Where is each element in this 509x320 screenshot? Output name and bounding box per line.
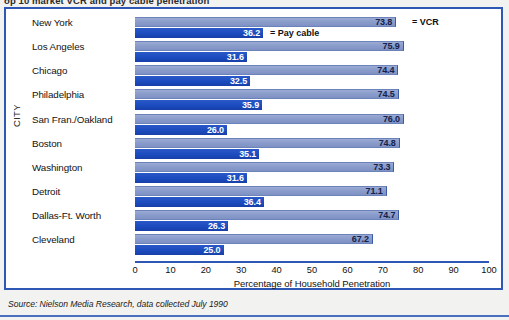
x-tick-label: 50 [297,265,327,275]
bar-value-vcr: 75.9 [370,41,400,51]
x-axis-line [135,261,489,263]
bar-vcr [135,138,400,148]
bar-value-vcr: 73.8 [362,17,392,27]
category-label: Boston [32,138,132,149]
bar-group: Los Angeles75.931.6 [6,40,505,64]
bar-value-vcr: 71.1 [353,186,383,196]
bar-value-pay-cable: 36.4 [231,197,261,207]
category-label: New York [32,17,132,28]
x-tick-label: 30 [226,265,256,275]
x-axis-tick-row: 0102030405060708090100 [6,265,505,279]
bar-group: Washington73.331.6 [6,161,505,185]
bar-value-pay-cable: 32.5 [217,76,247,86]
category-label: Cleveland [32,234,132,245]
bar-value-vcr: 74.4 [364,65,394,75]
bar-group: Cleveland67.225.0 [6,233,505,257]
bar-group: Chicago74.432.5 [6,64,505,88]
bar-value-pay-cable: 31.6 [214,173,244,183]
bar-value-vcr: 67.2 [339,234,369,244]
source-note: Source: Nielson Media Research, data col… [8,299,228,309]
bar-value-vcr: 74.8 [366,138,396,148]
bar-value-pay-cable: 36.2 [230,28,260,38]
x-tick-label: 20 [191,265,221,275]
plot-area: New York73.836.2Los Angeles75.931.6Chica… [6,9,505,258]
bar-value-vcr: 74.5 [365,89,395,99]
category-label: Philadelphia [32,89,132,100]
bar-group: Philadelphia74.535.9 [6,88,505,112]
bar-value-pay-cable: 25.0 [191,245,221,255]
bar-vcr [135,41,404,51]
category-label: Los Angeles [32,41,132,52]
x-tick-label: 40 [262,265,292,275]
chart-frame: CITY New York73.836.2Los Angeles75.931.6… [4,7,503,290]
category-label: Dallas-Ft. Worth [32,210,132,221]
x-tick-label: 60 [332,265,362,275]
legend-label-vcr: = VCR [412,17,439,27]
bar-value-vcr: 76.0 [370,114,400,124]
bar-group: Dallas-Ft. Worth74.726.3 [6,209,505,233]
bar-group: San Fran./Oakland76.026.0 [6,113,505,137]
x-tick-label: 90 [439,265,469,275]
bar-vcr [135,17,396,27]
bar-value-vcr: 73.3 [360,162,390,172]
legend-label-pay-cable: = Pay cable [270,28,319,38]
x-tick-label: 100 [474,265,504,275]
bar-vcr [135,234,373,244]
category-label: Washington [32,162,132,173]
bar-group: Detroit71.136.4 [6,185,505,209]
x-axis-title: Percentage of Household Penetration [135,278,489,289]
category-label: Detroit [32,186,132,197]
bar-value-vcr: 74.7 [365,210,395,220]
bar-value-pay-cable: 26.3 [195,221,225,231]
bar-value-pay-cable: 31.6 [214,52,244,62]
bar-vcr [135,89,399,99]
bar-value-pay-cable: 26.0 [194,125,224,135]
bar-value-pay-cable: 35.1 [226,149,256,159]
bar-vcr [135,162,394,172]
bottom-rule-divider [0,315,509,317]
x-tick-label: 70 [368,265,398,275]
category-label: Chicago [32,65,132,76]
bar-group: Boston74.835.1 [6,137,505,161]
bar-value-pay-cable: 35.9 [229,100,259,110]
cut-off-title-text: op 10 market VCR and pay cable penetrati… [4,0,209,6]
x-tick-label: 80 [403,265,433,275]
bar-vcr [135,65,398,75]
bar-vcr [135,210,399,220]
bar-vcr [135,114,404,124]
category-label: San Fran./Oakland [32,114,132,125]
x-tick-label: 0 [120,265,150,275]
bar-vcr [135,186,387,196]
x-tick-label: 10 [155,265,185,275]
cut-off-title-strip: op 10 market VCR and pay cable penetrati… [0,0,509,7]
